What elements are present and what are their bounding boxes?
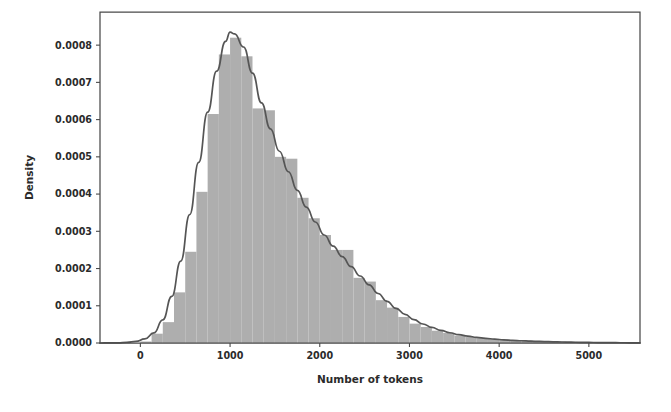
- y-tick-label: 0.0002: [55, 263, 92, 274]
- y-tick-label: 0.0000: [55, 337, 92, 348]
- x-tick-label: 3000: [396, 350, 423, 361]
- x-axis-label: Number of tokens: [317, 373, 423, 385]
- x-tick-label: 0: [137, 350, 144, 361]
- histogram-bar: [432, 331, 443, 343]
- x-tick-label: 2000: [306, 350, 333, 361]
- x-tick-label: 1000: [217, 350, 244, 361]
- y-tick-label: 0.0003: [55, 226, 92, 237]
- x-axis-ticks: 010002000300040005000: [137, 343, 603, 361]
- x-tick-label: 4000: [486, 350, 513, 361]
- histogram-bar: [409, 324, 420, 343]
- histogram-bar: [297, 198, 308, 343]
- y-tick-label: 0.0006: [55, 114, 92, 125]
- histogram-bar: [376, 300, 387, 343]
- histogram-bar: [174, 292, 185, 343]
- histogram-bar: [353, 278, 364, 343]
- x-tick-label: 5000: [576, 350, 603, 361]
- y-tick-label: 0.0007: [55, 77, 92, 88]
- y-tick-label: 0.0004: [55, 188, 92, 199]
- histogram-bar: [275, 157, 286, 343]
- histogram-bar: [185, 252, 196, 343]
- y-tick-label: 0.0005: [55, 151, 92, 162]
- y-tick-label: 0.0008: [55, 40, 92, 51]
- histogram-bar: [421, 327, 432, 343]
- histogram-bar: [163, 322, 174, 343]
- histogram-bars: [140, 38, 633, 343]
- histogram-bar: [398, 317, 409, 343]
- y-axis-ticks: 0.00000.00010.00020.00030.00040.00050.00…: [55, 40, 100, 349]
- histogram-bar: [331, 250, 342, 343]
- histogram-bar: [241, 56, 252, 343]
- histogram-bar: [219, 54, 230, 343]
- histogram-bar: [387, 308, 398, 343]
- histogram-bar: [443, 333, 454, 343]
- histogram-bar: [309, 218, 320, 343]
- y-axis-label: Density: [23, 155, 35, 200]
- histogram-bar: [196, 192, 207, 343]
- histogram-bar: [252, 108, 263, 343]
- histogram-bar: [320, 235, 331, 343]
- histogram-figure: 010002000300040005000 0.00000.00010.0002…: [0, 0, 671, 412]
- histogram-bar: [286, 159, 297, 343]
- histogram-bar: [208, 114, 219, 343]
- histogram-bar: [152, 334, 163, 343]
- y-tick-label: 0.0001: [55, 300, 92, 311]
- histogram-bar: [264, 110, 275, 343]
- histogram-bar: [230, 38, 241, 343]
- density-histogram-plot: 010002000300040005000 0.00000.00010.0002…: [0, 0, 671, 412]
- histogram-bar: [454, 336, 465, 343]
